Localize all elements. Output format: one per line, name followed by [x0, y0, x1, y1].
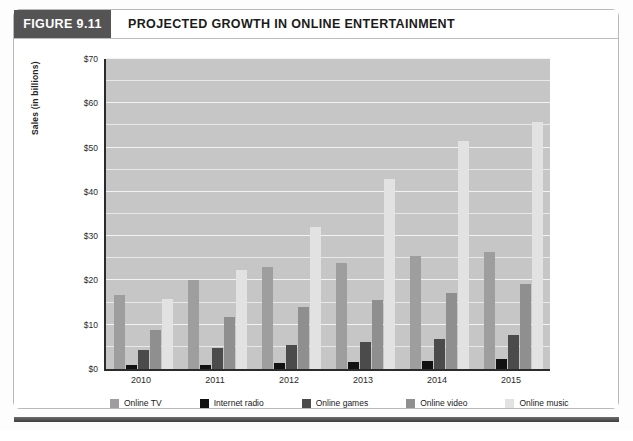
bar [422, 361, 433, 369]
bar [520, 284, 531, 369]
y-axis-title: Sales (in billions) [30, 15, 40, 135]
bar [434, 339, 445, 369]
legend-item: Online video [406, 398, 467, 408]
bar [212, 348, 223, 369]
bar-group [180, 59, 254, 369]
bar [372, 300, 383, 369]
bar [508, 335, 519, 369]
bar [162, 299, 173, 369]
bar [484, 252, 495, 369]
y-axis-tick-label: $60 [84, 98, 98, 108]
y-axis-tick-label: $0 [89, 364, 98, 374]
bar [496, 359, 507, 369]
bar [236, 270, 247, 369]
bottom-rule [14, 417, 619, 422]
x-axis-tick-label: 2010 [104, 375, 178, 391]
x-axis-tick-label: 2012 [252, 375, 326, 391]
bar [262, 267, 273, 369]
y-axis-tick-label: $20 [84, 275, 98, 285]
y-axis-tick-label: $40 [84, 187, 98, 197]
y-axis-tick-label: $30 [84, 231, 98, 241]
bar [150, 330, 161, 369]
legend-label: Online games [316, 398, 368, 408]
legend-label: Online music [519, 398, 568, 408]
bar [224, 317, 235, 369]
figure-tag: FIGURE 9.11 [14, 10, 111, 38]
bar [114, 295, 125, 369]
bar-group [106, 59, 180, 369]
bar [298, 307, 309, 369]
bar-group [476, 59, 550, 369]
bar [360, 342, 371, 369]
bar-group [254, 59, 328, 369]
chart-legend: Online TVInternet radioOnline gamesOnlin… [110, 396, 560, 410]
x-axis-tick-label: 2013 [326, 375, 400, 391]
bar [410, 256, 421, 369]
bar [310, 227, 321, 369]
legend-swatch-icon [110, 399, 119, 408]
page-bottom-margin [0, 430, 633, 441]
legend-item: Online games [302, 398, 368, 408]
y-axis-tick-label: $10 [84, 320, 98, 330]
bar [138, 350, 149, 369]
bar-groups [106, 59, 550, 369]
bar [348, 362, 359, 369]
bar [126, 365, 137, 369]
y-axis-tick-labels: $0$10$20$30$40$50$60$70 [59, 59, 102, 369]
x-axis-tick-labels: 201020112012201320142015 [104, 375, 548, 391]
bar [286, 345, 297, 369]
legend-swatch-icon [302, 399, 311, 408]
legend-swatch-icon [406, 399, 415, 408]
plot-area [104, 59, 550, 371]
y-axis-tick-label: $50 [84, 143, 98, 153]
legend-item: Online music [505, 398, 568, 408]
legend-swatch-icon [200, 399, 209, 408]
legend-label: Internet radio [214, 398, 264, 408]
bar [446, 293, 457, 369]
chart-body: Sales (in billions) $0$10$20$30$40$50$60… [14, 39, 618, 408]
figure-header: FIGURE 9.11 PROJECTED GROWTH IN ONLINE E… [14, 10, 618, 38]
bar [336, 263, 347, 369]
figure-title: PROJECTED GROWTH IN ONLINE ENTERTAINMENT [111, 10, 618, 38]
bar-group [402, 59, 476, 369]
bar [188, 280, 199, 369]
bar [458, 141, 469, 369]
legend-label: Online video [420, 398, 467, 408]
legend-item: Internet radio [200, 398, 264, 408]
bar-group [328, 59, 402, 369]
bar [532, 122, 543, 369]
bar [384, 179, 395, 369]
y-axis-tick-label: $70 [84, 54, 98, 64]
legend-swatch-icon [505, 399, 514, 408]
x-axis-tick-label: 2011 [178, 375, 252, 391]
bar [200, 365, 211, 369]
figure-page: FIGURE 9.11 PROJECTED GROWTH IN ONLINE E… [0, 0, 633, 441]
x-axis-tick-label: 2014 [400, 375, 474, 391]
legend-label: Online TV [124, 398, 162, 408]
x-axis-tick-label: 2015 [474, 375, 548, 391]
legend-item: Online TV [110, 398, 162, 408]
bar [274, 363, 285, 369]
